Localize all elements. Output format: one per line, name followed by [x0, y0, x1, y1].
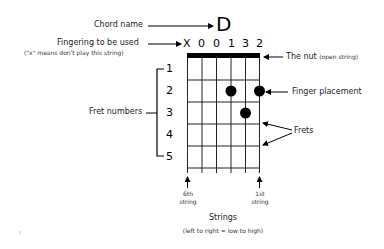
finger-placement-label: Finger placement	[292, 87, 362, 96]
fret-number-5: 5	[166, 150, 173, 163]
frets-label: Frets	[294, 126, 313, 135]
frets-arrow-1	[263, 123, 292, 130]
nut-label-note: (open string)	[319, 53, 358, 60]
finger-dot-string5-fret3	[240, 108, 251, 119]
frets-arrow-2	[263, 133, 292, 145]
chord-name: D	[216, 12, 231, 36]
nut-label-text: The nut	[286, 52, 317, 61]
sixth-string-label-2: string	[176, 198, 200, 205]
fret-lines	[187, 80, 260, 168]
first-string-label-1: 1st	[254, 190, 266, 197]
fret-number-4: 4	[166, 128, 173, 141]
nut-bar	[187, 53, 260, 58]
strings-title: Strings	[163, 213, 283, 222]
fret-numbers-bracket	[157, 69, 164, 156]
chord-name-label: Chord name	[94, 20, 143, 29]
fingering-string2: 3	[242, 37, 249, 50]
fingering-note: ("x" means don't play this string)	[24, 49, 124, 56]
nut-label: The nut (open string)	[286, 52, 358, 61]
finger-dot-string4-fret2	[226, 86, 237, 97]
fingering-label: Fingering to be used	[57, 38, 139, 47]
fret-number-2: 2	[166, 84, 173, 97]
strings-note: (left to right = low to high)	[153, 227, 293, 234]
first-string-label-2: string	[248, 198, 272, 205]
fret-number-1: 1	[166, 62, 173, 75]
sixth-string-label-1: 6th	[182, 190, 194, 197]
fingering-string4: 0	[213, 37, 220, 50]
finger-dot-string6-fret2	[254, 86, 265, 97]
fret-numbers-label: Fret numbers	[89, 107, 142, 116]
fingering-string6: X	[183, 37, 191, 50]
fingering-string5: 0	[198, 37, 205, 50]
fingering-string3: 1	[228, 37, 235, 50]
fingering-string1: 2	[256, 37, 263, 50]
fret-number-3: 3	[166, 106, 173, 119]
